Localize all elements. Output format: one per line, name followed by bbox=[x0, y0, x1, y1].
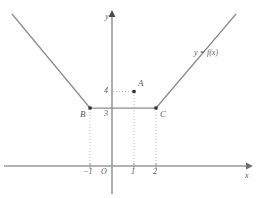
point-label-A: A bbox=[138, 79, 144, 88]
point-marker-A bbox=[132, 90, 135, 93]
point-marker-C bbox=[154, 106, 157, 109]
guide-lines-group bbox=[90, 92, 156, 166]
x-axis-arrow bbox=[246, 163, 253, 170]
x-tick-label-2: 2 bbox=[153, 168, 157, 176]
origin-label: O bbox=[101, 168, 107, 176]
x-tick-label-1: 1 bbox=[131, 168, 135, 176]
x-axis-label: x bbox=[245, 172, 249, 180]
point-label-B: B bbox=[80, 110, 86, 119]
point-marker-B bbox=[88, 106, 91, 109]
y-tick-label-3: 3 bbox=[104, 110, 108, 118]
function-graph-figure: y x O −1 1 2 3 4 A B C y = f(x) bbox=[0, 0, 262, 198]
function-curve-path bbox=[12, 14, 236, 108]
point-label-C: C bbox=[160, 110, 166, 119]
y-axis-label: y bbox=[105, 13, 109, 21]
x-tick-label-neg1: −1 bbox=[83, 168, 92, 176]
y-axis-arrow bbox=[109, 10, 116, 17]
function-curve-group bbox=[12, 14, 236, 108]
curve-equation-label: y = f(x) bbox=[194, 49, 218, 57]
y-tick-label-4: 4 bbox=[104, 87, 108, 95]
marked-points-group bbox=[88, 90, 157, 110]
